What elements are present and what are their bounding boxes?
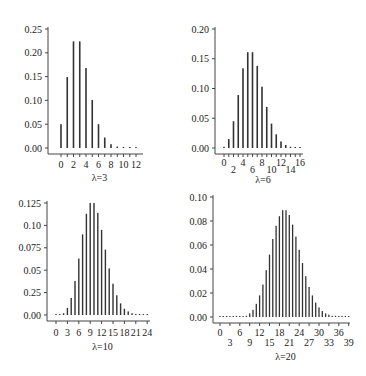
- x-tick-label: 12: [255, 327, 265, 338]
- pmf-bar: [60, 124, 62, 148]
- pmf-bar: [66, 77, 68, 148]
- pmf-bar: [335, 316, 336, 317]
- x-tick-label: 24: [142, 327, 152, 338]
- x-tick-label: 2: [71, 159, 76, 170]
- pmf-bar: [341, 316, 342, 317]
- pmf-bar: [59, 314, 60, 315]
- pmf-bar: [299, 250, 300, 317]
- pmf-bar: [98, 124, 100, 148]
- x-tick-label: 8: [109, 159, 114, 170]
- y-tick-label: 0.10: [190, 192, 208, 203]
- pmf-bar: [116, 295, 117, 315]
- pmf-bar: [294, 147, 296, 148]
- pmf-bar: [247, 52, 249, 148]
- x-tick-label: 24: [294, 327, 304, 338]
- x-tick-label: 6: [96, 159, 101, 170]
- pmf-bar: [328, 315, 329, 317]
- x-tick-label: 33: [324, 337, 334, 348]
- y-tick-label: 0.075: [19, 242, 42, 253]
- pmf-bar: [90, 203, 91, 315]
- pmf-bar: [123, 147, 125, 148]
- x-tick-label: 9: [88, 327, 93, 338]
- pmf-bar: [233, 316, 234, 317]
- pmf-bar: [93, 203, 94, 315]
- pmf-bar: [252, 310, 253, 317]
- x-tick-label: 16: [295, 157, 305, 168]
- pmf-bar: [85, 68, 87, 148]
- pmf-bar: [79, 41, 81, 148]
- pmf-bar: [325, 313, 326, 317]
- pmf-bar: [223, 316, 224, 317]
- pmf-bar: [315, 303, 316, 317]
- pmf-bar: [74, 281, 75, 315]
- pmf-bar: [223, 147, 225, 148]
- x-tick-label: 15: [265, 337, 275, 348]
- pmf-bar: [128, 311, 129, 315]
- pmf-bar: [312, 295, 313, 317]
- panel-lambda-20: 0.000.020.040.060.080.100612182430363915…: [190, 192, 354, 363]
- y-tick-label: 0.00: [190, 312, 208, 323]
- pmf-bar: [236, 316, 237, 317]
- panel-lambda-6: 0.000.050.100.150.200246810121416λ=6: [192, 24, 306, 186]
- pmf-bar: [143, 314, 144, 315]
- x-tick-label: 6: [250, 164, 255, 175]
- pmf-bar: [269, 255, 270, 317]
- pmf-bar: [86, 214, 87, 315]
- x-tick-label: 39: [344, 337, 354, 348]
- pmf-bar: [302, 263, 303, 317]
- y-tick-label: 0.05: [192, 113, 210, 124]
- y-tick-label: 0.08: [190, 216, 208, 227]
- x-tick-label: 36: [334, 327, 344, 338]
- pmf-bar: [289, 215, 290, 317]
- y-tick-label: 0.125: [19, 198, 42, 209]
- pmf-bar: [97, 213, 98, 315]
- pmf-bar: [91, 100, 93, 148]
- x-tick-label: 12: [97, 327, 107, 338]
- pmf-bar: [332, 316, 333, 317]
- panel-lambda-10: 0.000.250.050.0750.100.12503691215182124…: [19, 198, 153, 353]
- y-tick-label: 0.05: [24, 265, 42, 276]
- pmf-bar: [318, 307, 319, 317]
- pmf-bar: [239, 316, 240, 317]
- x-tick-label: 0: [218, 327, 223, 338]
- pmf-bar: [295, 237, 296, 317]
- pmf-bar: [345, 316, 346, 317]
- pmf-bar: [292, 225, 293, 317]
- pmf-bar: [280, 141, 282, 148]
- pmf-bar: [73, 41, 75, 148]
- pmf-bar: [129, 147, 131, 148]
- x-tick-label: 0: [222, 157, 227, 168]
- pmf-bar: [101, 230, 102, 315]
- pmf-bar: [226, 316, 227, 317]
- pmf-bar: [271, 124, 273, 148]
- y-tick-label: 0.06: [190, 240, 208, 251]
- pmf-bar: [275, 134, 277, 148]
- x-tick-label: 3: [227, 337, 232, 348]
- panel-lambda-3: 0.000.050.100.150.200.25024681012λ=3: [25, 24, 144, 184]
- pmf-bar: [78, 259, 79, 315]
- pmf-bar: [228, 139, 230, 148]
- pmf-bar: [135, 314, 136, 315]
- x-tick-label: 27: [304, 337, 314, 348]
- pmf-bar: [120, 303, 121, 315]
- x-tick-label: 18: [119, 327, 129, 338]
- x-tick-label: 8: [260, 157, 265, 168]
- y-tick-label: 0.25: [25, 24, 43, 35]
- pmf-bar: [275, 226, 276, 317]
- x-axis-label: λ=20: [275, 351, 296, 362]
- x-tick-label: 15: [108, 327, 118, 338]
- pmf-bar: [252, 52, 254, 148]
- y-tick-label: 0.04: [190, 264, 208, 275]
- y-tick-label: 0.15: [192, 53, 210, 64]
- x-tick-label: 18: [274, 327, 284, 338]
- x-tick-label: 2: [231, 164, 236, 175]
- pmf-bar: [256, 66, 258, 148]
- x-tick-label: 4: [241, 157, 246, 168]
- pmf-bar: [67, 308, 68, 315]
- pmf-bar: [71, 298, 72, 315]
- pmf-bar: [110, 144, 112, 148]
- y-tick-label: 0.10: [24, 220, 42, 231]
- pmf-bar: [242, 68, 244, 148]
- y-tick-label: 0.10: [192, 83, 210, 94]
- pmf-bar: [282, 210, 283, 317]
